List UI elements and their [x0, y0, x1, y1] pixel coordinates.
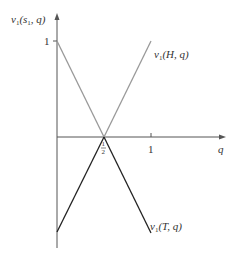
- series-t-label: v1(T, q): [150, 220, 182, 234]
- x-axis-arrow-icon: [219, 135, 226, 140]
- series-h-lower: [57, 137, 104, 232]
- y-axis-label: v1(s1, q): [11, 13, 46, 27]
- series-t-upper: [57, 41, 104, 137]
- series-h-upper: [104, 41, 151, 137]
- series-h-label: v1(H, q): [154, 48, 189, 62]
- series-t-lower: [104, 137, 151, 233]
- x-tick-label-half-den: 2: [102, 148, 106, 156]
- y-tick-label-1: 1: [44, 35, 50, 47]
- payoff-chart: v1(s1, q) 1 1 1 2 q v1(H, q) v1(T, q): [0, 0, 235, 259]
- x-tick-label-half-num: 1: [102, 140, 106, 148]
- x-axis-label: q: [218, 143, 224, 155]
- x-tick-label-1: 1: [148, 143, 154, 155]
- y-axis-arrow-icon: [55, 13, 60, 20]
